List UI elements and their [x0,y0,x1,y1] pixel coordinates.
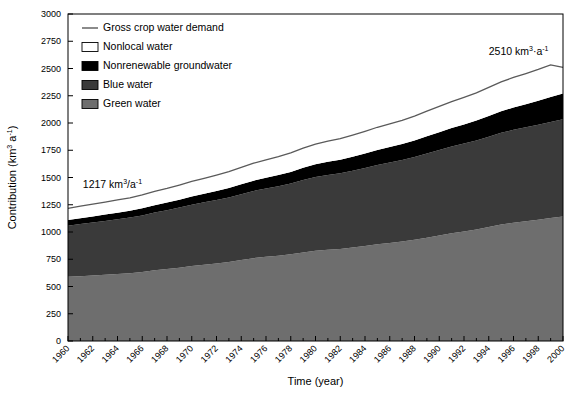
x-tick-label: 1990 [421,343,442,364]
x-tick-label: 1980 [298,343,319,364]
y-tick-label: 2500 [41,64,61,74]
x-tick-label: 1982 [322,343,343,364]
area-chart-svg: 0250500750100012501500175020002250250027… [0,0,578,393]
y-tick-label: 750 [46,254,61,264]
legend-label: Nonlocal water [103,40,173,52]
x-tick-label: 2000 [545,343,566,364]
y-tick-label: 2250 [41,91,61,101]
legend-marker-box [82,81,98,90]
legend-label: Gross crop water demand [103,21,224,33]
x-tick-label: 1972 [199,343,220,364]
legend-label: Nonrenewable groundwater [103,59,233,71]
legend-marker-box [82,62,98,71]
x-tick-label: 1962 [75,343,96,364]
x-tick-label: 1996 [496,343,517,364]
x-tick-label: 1978 [273,343,294,364]
x-tick-label: 1994 [471,343,492,364]
x-tick-label: 1968 [149,343,170,364]
legend-marker-box [82,43,98,52]
y-tick-label: 1750 [41,145,61,155]
y-tick-label: 0 [56,336,61,346]
x-tick-label: 1964 [100,343,121,364]
x-tick-label: 1976 [248,343,269,364]
y-tick-label: 1000 [41,227,61,237]
annotation-end-value: 2510 km3·a-1 [489,45,549,57]
y-tick-label: 2750 [41,36,61,46]
x-tick-label: 1970 [174,343,195,364]
chart-figure: 0250500750100012501500175020002250250027… [0,0,578,393]
legend-label: Blue water [103,78,153,90]
y-tick-label: 3000 [41,9,61,19]
x-axis-title: Time (year) [288,375,344,387]
y-tick-label: 1250 [41,200,61,210]
y-axis: 0250500750100012501500175020002250250027… [6,9,73,346]
x-tick-label: 1998 [520,343,541,364]
y-axis-title: Contribution (km3 a-1) [6,126,18,230]
x-tick-label: 1988 [397,343,418,364]
x-tick-label: 1984 [347,343,368,364]
x-tick-label: 1986 [372,343,393,364]
x-tick-label: 1992 [446,343,467,364]
x-tick-label: 1966 [124,343,145,364]
y-tick-label: 500 [46,282,61,292]
y-tick-label: 1500 [41,173,61,183]
annotation-start-value: 1217 km3/a-1 [83,178,142,190]
x-tick-label: 1974 [223,343,244,364]
x-axis: 1960196219641966196819701972197419761978… [50,336,566,387]
y-tick-label: 2000 [41,118,61,128]
y-tick-label: 250 [46,309,61,319]
legend-label: Green water [103,97,161,109]
x-tick-label: 1960 [50,343,71,364]
legend-marker-box [82,100,98,109]
